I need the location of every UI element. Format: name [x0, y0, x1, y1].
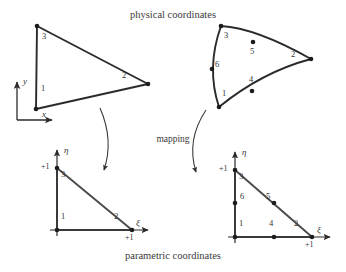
x-axis-label: x [42, 110, 46, 119]
node-label-4: 4 [249, 75, 253, 84]
mapping-arrow-right [193, 110, 206, 172]
node-marker-2 [130, 228, 135, 233]
node-marker-2 [309, 57, 314, 62]
node-label-3: 3 [42, 32, 46, 41]
node-marker-1 [217, 105, 222, 110]
mapping-figure: physical coordinates mapping parametric … [0, 0, 346, 272]
node-label-6: 6 [240, 192, 244, 201]
node-marker-3 [35, 24, 40, 29]
mapping-arrow-left [100, 108, 108, 170]
node-label-2: 2 [291, 50, 295, 59]
node-label-4: 4 [269, 219, 273, 228]
y-axis-label: y [23, 77, 27, 86]
xi-axis-label: ξ [317, 226, 321, 235]
node-marker-6 [233, 201, 238, 206]
node-label-1: 1 [61, 212, 65, 221]
triangle-outline [36, 26, 148, 109]
node-marker-4 [272, 235, 277, 240]
node-label-5: 5 [266, 192, 270, 201]
node-marker-1 [233, 235, 238, 240]
node-label-3: 3 [61, 170, 65, 179]
xi-tick-plus-one: +1 [305, 241, 314, 249]
parametric-linear-triangle [50, 150, 148, 236]
node-label-1: 1 [222, 89, 226, 98]
node-marker-3 [233, 168, 238, 173]
node-marker-1 [55, 228, 60, 233]
node-marker-4 [250, 89, 255, 94]
node-marker-5 [272, 201, 277, 206]
eta-tick-plus-one: +1 [219, 165, 228, 173]
node-label-2: 2 [114, 212, 118, 221]
triangle-outline [57, 168, 132, 230]
node-label-2: 2 [294, 219, 298, 228]
node-label-2: 2 [122, 71, 126, 80]
node-label-1: 1 [239, 219, 243, 228]
eta-axis-label: η [242, 148, 246, 157]
node-label-3: 3 [239, 172, 243, 181]
node-marker-3 [219, 24, 224, 29]
node-label-3: 3 [224, 31, 228, 40]
eta-axis-label: η [64, 146, 68, 155]
node-marker-3 [55, 166, 60, 171]
node-label-1: 1 [41, 84, 45, 93]
node-label-5: 5 [250, 47, 254, 56]
node-marker-2 [310, 235, 315, 240]
node-marker-2 [146, 82, 151, 87]
xi-tick-plus-one: +1 [125, 234, 134, 242]
xi-axis-label: ξ [136, 219, 140, 228]
node-marker-6 [210, 67, 215, 72]
physical-linear-triangle [34, 24, 151, 112]
node-label-6: 6 [215, 60, 219, 69]
eta-tick-plus-one: +1 [41, 163, 50, 171]
diagram-canvas [0, 0, 346, 272]
node-marker-5 [251, 40, 256, 45]
node-marker-1 [34, 107, 39, 112]
xy-axes [17, 82, 52, 120]
